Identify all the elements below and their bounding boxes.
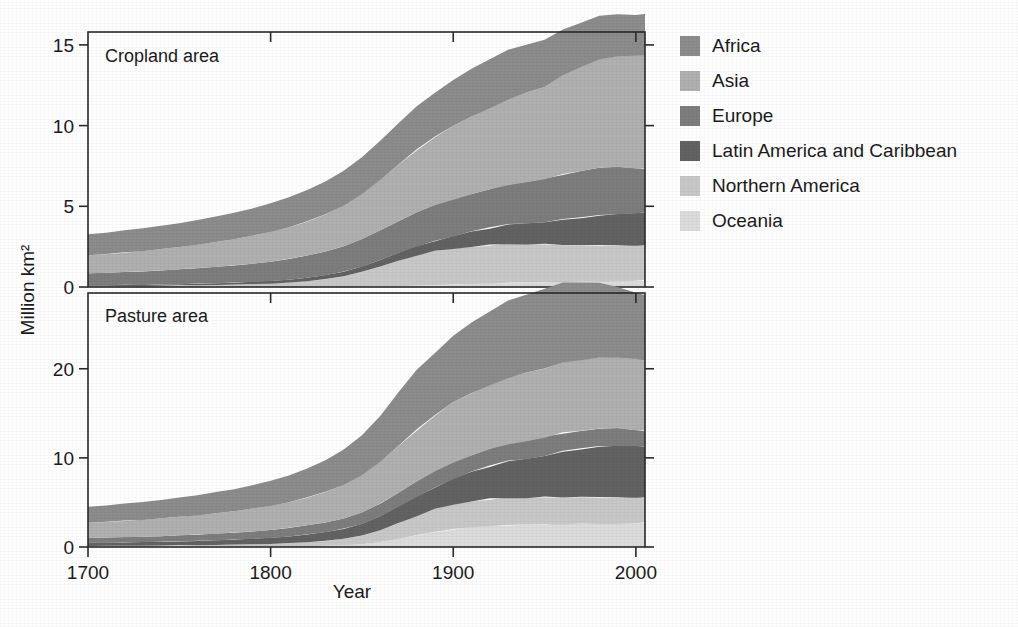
legend-label-latin-america-and-caribbean[interactable]: Latin America and Caribbean <box>712 140 957 161</box>
y-tick-label: 0 <box>63 537 74 558</box>
cropland-panel-title: Cropland area <box>105 46 220 66</box>
x-tick-label: 1900 <box>432 562 474 583</box>
figure-container: 051015 Cropland area 01020 1700180019002… <box>0 0 1018 627</box>
legend-swatch-europe[interactable] <box>680 106 700 126</box>
y-tick-label: 20 <box>53 359 74 380</box>
x-tick-label: 1700 <box>67 562 109 583</box>
y-tick-label: 10 <box>53 448 74 469</box>
y-axis-title: Million km² <box>17 245 38 336</box>
legend-swatch-latin-america-and-caribbean[interactable] <box>680 141 700 161</box>
stacked-area-figure: 051015 Cropland area 01020 1700180019002… <box>0 0 1018 627</box>
x-tick-label: 2000 <box>615 562 657 583</box>
y-tick-label: 15 <box>53 35 74 56</box>
legend-label-oceania[interactable]: Oceania <box>712 210 783 231</box>
x-tick-label: 1800 <box>249 562 291 583</box>
legend-swatch-asia[interactable] <box>680 71 700 91</box>
y-tick-label: 10 <box>53 116 74 137</box>
legend-swatch-oceania[interactable] <box>680 211 700 231</box>
legend-label-africa[interactable]: Africa <box>712 35 761 56</box>
pasture-panel-title: Pasture area <box>105 306 209 326</box>
legend-swatch-northern-america[interactable] <box>680 176 700 196</box>
legend-label-europe[interactable]: Europe <box>712 105 773 126</box>
legend-label-asia[interactable]: Asia <box>712 70 749 91</box>
y-tick-label: 0 <box>63 277 74 298</box>
x-axis-title: Year <box>333 581 372 602</box>
legend-label-northern-america[interactable]: Northern America <box>712 175 860 196</box>
y-tick-label: 5 <box>63 196 74 217</box>
legend-swatch-africa[interactable] <box>680 36 700 56</box>
